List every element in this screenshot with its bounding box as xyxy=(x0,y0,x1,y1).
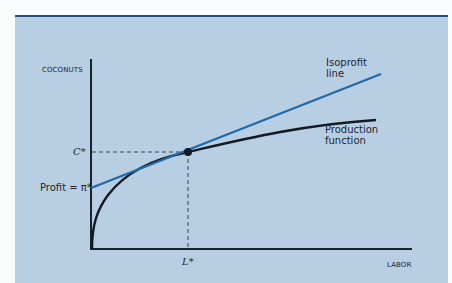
production-label-line1: Production xyxy=(325,124,378,135)
tangency-point xyxy=(184,148,192,156)
production-label-line2: function xyxy=(325,135,378,146)
isoprofit-label: Isoprofit line xyxy=(326,57,367,79)
isoprofit-label-line2: line xyxy=(326,68,367,79)
l-star-label: L* xyxy=(182,256,194,267)
production-label: Production function xyxy=(325,124,378,146)
y-axis-label: COCONUTS xyxy=(42,66,83,74)
profit-intercept-label: Profit = π* xyxy=(40,182,92,193)
c-star-label: C* xyxy=(73,146,86,157)
x-axis-label: LABOR xyxy=(387,261,411,269)
isoprofit-label-line1: Isoprofit xyxy=(326,57,367,68)
